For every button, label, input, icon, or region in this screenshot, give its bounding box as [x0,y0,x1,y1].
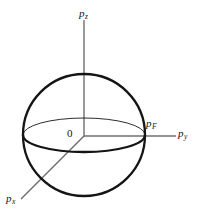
axis-label-px: px [6,193,15,204]
origin-label: 0 [67,128,73,139]
axis-line-px [21,136,84,199]
axis-label-pz: pz [79,8,88,19]
axis-label-py: py [178,128,187,139]
fermi-momentum-label: pF [146,118,157,129]
fermi-sphere-figure: pz py px pF 0 [0,0,199,219]
fermi-sphere-drawing [0,0,199,219]
equator-near-half [23,135,145,152]
